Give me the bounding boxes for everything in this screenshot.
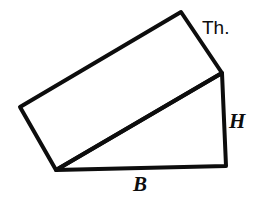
diagram-canvas: Th. H B bbox=[0, 0, 260, 202]
height-label: H bbox=[229, 111, 245, 132]
thickness-label: Th. bbox=[202, 18, 229, 37]
base-label: B bbox=[133, 174, 147, 195]
